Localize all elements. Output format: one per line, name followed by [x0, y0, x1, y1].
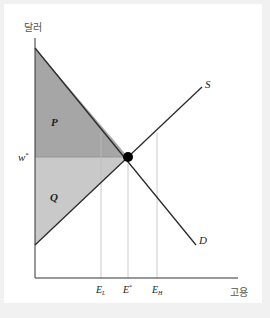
demand-label: D — [198, 234, 207, 246]
equilibrium-point — [123, 152, 133, 162]
x-axis-label: 고용 — [230, 287, 248, 298]
supply-demand-diagram: 달러 고용 S D P Q w* EL E* EH — [0, 0, 270, 318]
tick-el-sub: L — [101, 290, 106, 296]
supply-label: S — [205, 78, 211, 90]
region-q-label: Q — [50, 191, 58, 203]
tick-estar-sup: * — [129, 284, 132, 290]
tick-estar-base: E — [122, 284, 129, 295]
y-axis-label: 달러 — [24, 22, 42, 33]
tick-eh-base: E — [151, 284, 158, 295]
tick-eh-sub: H — [157, 290, 163, 296]
wage-label: w* — [18, 151, 29, 163]
wage-label-sup: * — [25, 151, 29, 159]
tick-label-el: EL — [95, 284, 106, 296]
region-p-label: P — [51, 116, 58, 128]
tick-label-estar: E* — [122, 284, 132, 295]
tick-label-eh: EH — [151, 284, 163, 296]
tick-el-base: E — [95, 284, 102, 295]
